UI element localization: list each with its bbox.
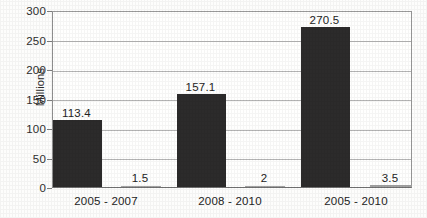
y-tick-label-300: 300 bbox=[6, 5, 46, 17]
bar-2008-2010-dark bbox=[177, 94, 226, 187]
x-tick-label-2008-2010: 2008 - 2010 bbox=[176, 195, 284, 207]
data-label-2005-2010-dark: 270.5 bbox=[300, 14, 349, 26]
y-tick-label-100: 100 bbox=[6, 123, 46, 135]
y-tick-label-250: 250 bbox=[6, 35, 46, 47]
gridline-200 bbox=[53, 71, 411, 72]
x-tick-label-2005-2007: 2005 - 2007 bbox=[52, 195, 160, 207]
bar-2008-2010-light bbox=[245, 186, 285, 187]
gridline-250 bbox=[53, 41, 411, 42]
bar-2005-2007-light bbox=[121, 186, 161, 187]
data-label-2005-2007-light: 1.5 bbox=[120, 172, 160, 184]
y-tick-label-150: 150 bbox=[6, 94, 46, 106]
y-tick-label-200: 200 bbox=[6, 64, 46, 76]
bar-chart-screenshot: Millions 300 250 200 150 100 50 0 113.4 … bbox=[0, 0, 427, 218]
bar-2005-2007-dark bbox=[53, 120, 102, 187]
x-tick-label-2005-2010: 2005 - 2010 bbox=[301, 195, 411, 207]
gridline-50 bbox=[53, 159, 411, 160]
bar-2005-2010-light bbox=[370, 185, 412, 187]
y-tick-mark-0 bbox=[47, 188, 52, 189]
gridline-100 bbox=[53, 130, 411, 131]
bar-2005-2010-dark bbox=[301, 27, 350, 187]
plot-area bbox=[52, 11, 412, 188]
data-label-2005-2007-dark: 113.4 bbox=[52, 107, 101, 119]
data-label-2008-2010-light: 2 bbox=[244, 172, 284, 184]
data-label-2005-2010-light: 3.5 bbox=[369, 172, 411, 184]
y-axis-title: Millions bbox=[34, 42, 46, 132]
gridline-150 bbox=[53, 100, 411, 101]
data-label-2008-2010-dark: 157.1 bbox=[176, 81, 225, 93]
y-tick-label-0: 0 bbox=[6, 182, 46, 194]
y-tick-label-50: 50 bbox=[6, 153, 46, 165]
